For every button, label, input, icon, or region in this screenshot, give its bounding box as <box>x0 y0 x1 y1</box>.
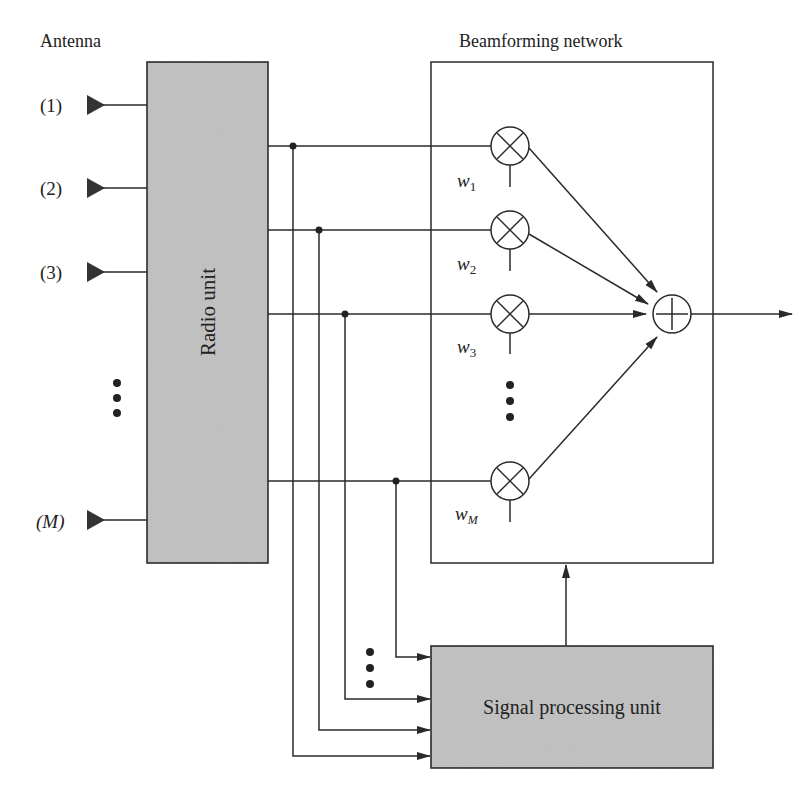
antenna-triangle-icon <box>87 262 105 282</box>
antenna-triangle-icon <box>87 95 105 115</box>
antenna-triangle-icon <box>87 510 105 530</box>
feed-ellipsis-icon <box>366 648 374 688</box>
antenna-label-3: (3) <box>40 262 62 284</box>
antenna-label-m: (M) <box>36 511 64 533</box>
summer-icon <box>653 295 691 333</box>
antenna-3: (3) <box>40 262 147 284</box>
weight-w3: w3 <box>457 336 476 360</box>
weight-ellipsis-icon <box>506 381 514 421</box>
antenna-triangle-icon <box>87 178 105 198</box>
antenna-label-2: (2) <box>40 178 62 200</box>
antenna-1: (1) <box>40 95 147 117</box>
antenna-title: Antenna <box>40 31 101 51</box>
antenna-ellipsis-icon <box>113 379 121 417</box>
multipliers <box>491 127 529 522</box>
signal-processing-label: Signal processing unit <box>483 696 661 719</box>
multiplier-2-icon <box>491 211 529 271</box>
antenna-2: (2) <box>40 178 147 200</box>
antenna-m: (M) <box>36 510 147 533</box>
weight-w1: w1 <box>457 170 476 194</box>
multiplier-3-icon <box>491 295 529 354</box>
weight-w2: w2 <box>457 253 476 277</box>
radio-unit-block: Radio unit <box>147 62 268 563</box>
signal-processing-block: Signal processing unit <box>431 646 713 768</box>
weight-wm: wM <box>455 503 479 527</box>
antenna-label-1: (1) <box>40 95 62 117</box>
multiplier-1-icon <box>491 127 529 187</box>
beamforming-title: Beamforming network <box>459 31 622 51</box>
weight-labels: w1 w2 w3 wM <box>455 170 479 527</box>
combiner-lines <box>529 148 657 479</box>
multiplier-m-icon <box>491 462 529 522</box>
radio-unit-label: Radio unit <box>196 268 220 356</box>
beamforming-diagram: Antenna Beamforming network (1) (2) (3) … <box>0 0 806 806</box>
